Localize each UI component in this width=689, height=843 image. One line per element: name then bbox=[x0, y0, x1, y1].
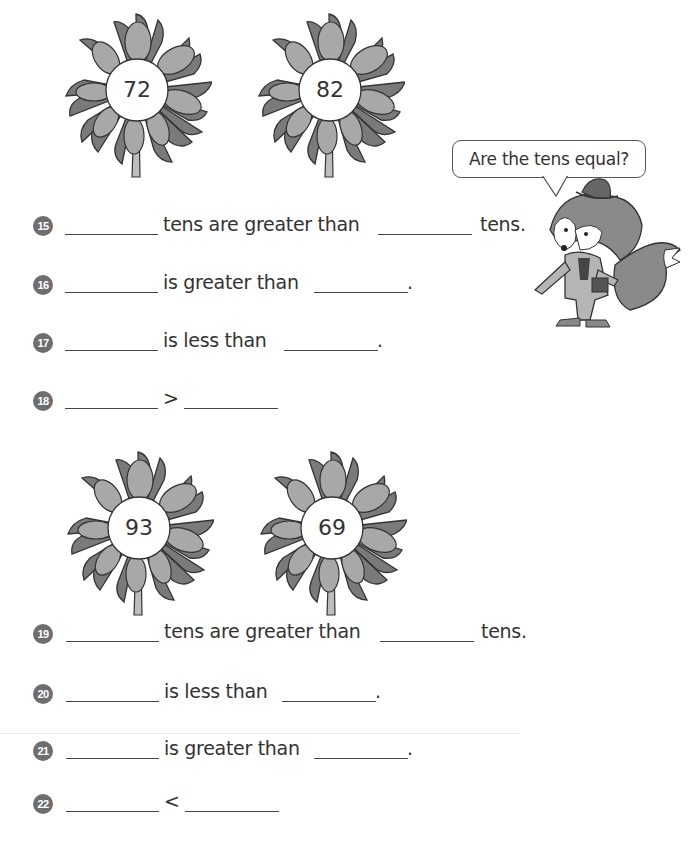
answer-blank[interactable] bbox=[65, 234, 158, 235]
answer-blank[interactable] bbox=[66, 811, 159, 812]
comparison-symbol: > bbox=[163, 387, 179, 409]
answer-blank[interactable] bbox=[66, 641, 159, 642]
answer-blank[interactable] bbox=[65, 408, 158, 409]
fox-character-icon bbox=[520, 170, 689, 335]
question-text: . bbox=[407, 737, 413, 759]
answer-blank[interactable] bbox=[314, 292, 408, 293]
question-number-badge: 20 bbox=[33, 684, 53, 704]
question-text: is less than bbox=[164, 680, 268, 702]
question-number-badge: 19 bbox=[33, 624, 53, 644]
answer-blank[interactable] bbox=[282, 701, 376, 702]
question-text: is greater than bbox=[164, 737, 300, 759]
question-number-badge: 21 bbox=[33, 741, 53, 761]
sunflower-82: 82 bbox=[255, 2, 405, 182]
question-text: . bbox=[375, 680, 381, 702]
question-text: . bbox=[377, 329, 383, 351]
question-text: is less than bbox=[163, 329, 267, 351]
answer-blank[interactable] bbox=[380, 641, 474, 642]
flower-number: 93 bbox=[109, 498, 169, 558]
answer-blank[interactable] bbox=[184, 408, 278, 409]
comparison-symbol: < bbox=[164, 790, 180, 812]
question-number-badge: 16 bbox=[33, 275, 53, 295]
question-text: tens. bbox=[481, 620, 527, 642]
divider bbox=[0, 733, 520, 734]
question-text: is greater than bbox=[163, 271, 299, 293]
answer-blank[interactable] bbox=[314, 758, 408, 759]
answer-blank[interactable] bbox=[185, 811, 279, 812]
flower-number: 72 bbox=[107, 60, 167, 120]
answer-blank[interactable] bbox=[284, 350, 378, 351]
question-text: tens are greater than bbox=[163, 213, 360, 235]
flower-number: 69 bbox=[302, 498, 362, 558]
answer-blank[interactable] bbox=[66, 758, 159, 759]
sunflower-72: 72 bbox=[62, 2, 212, 182]
sunflower-69: 69 bbox=[257, 440, 407, 620]
answer-blank[interactable] bbox=[65, 292, 158, 293]
question-text: tens. bbox=[480, 213, 526, 235]
sunflower-93: 93 bbox=[64, 440, 214, 620]
answer-blank[interactable] bbox=[378, 234, 472, 235]
flower-number: 82 bbox=[300, 60, 360, 120]
question-text: . bbox=[407, 271, 413, 293]
question-text: tens are greater than bbox=[164, 620, 361, 642]
question-number-badge: 22 bbox=[33, 794, 53, 814]
question-number-badge: 18 bbox=[33, 391, 53, 411]
answer-blank[interactable] bbox=[66, 701, 159, 702]
question-number-badge: 15 bbox=[33, 216, 53, 236]
question-number-badge: 17 bbox=[33, 333, 53, 353]
answer-blank[interactable] bbox=[65, 350, 158, 351]
